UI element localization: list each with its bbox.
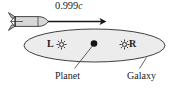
arrow-right-icon — [48, 18, 107, 25]
speed-label: 0.999c — [55, 1, 82, 12]
planet-dot — [91, 40, 98, 47]
planet-caption: Planet — [55, 71, 80, 81]
speed-unit: c — [78, 1, 82, 11]
relativity-diagram: 0.999c L R Planet Galaxy — [0, 0, 177, 90]
speed-value: 0.999 — [55, 0, 78, 11]
star-right-label: R — [129, 39, 136, 49]
rocket-icon — [9, 13, 49, 31]
galaxy-leader-line — [140, 58, 147, 69]
galaxy-caption: Galaxy — [127, 71, 156, 81]
star-left-label: L — [47, 39, 54, 49]
